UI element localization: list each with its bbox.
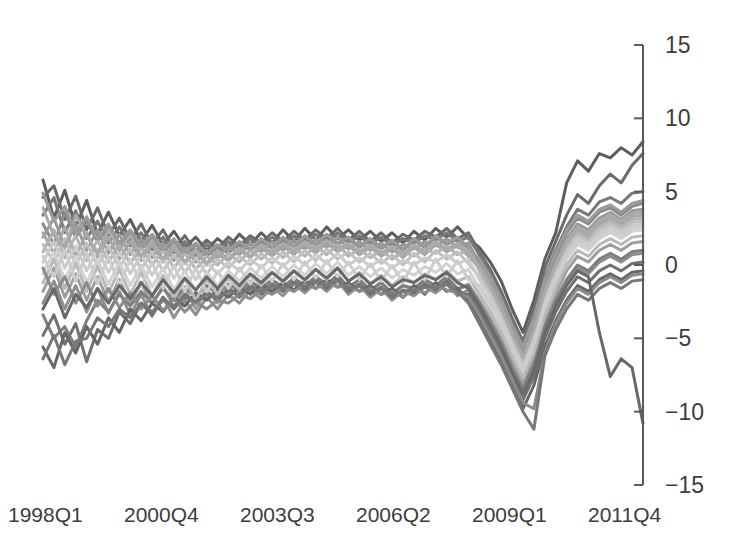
spaghetti-line-chart xyxy=(0,0,745,554)
y-axis-tick-label: −10 xyxy=(665,401,704,424)
y-axis-tick-label: 0 xyxy=(665,254,678,277)
chart-container: 151050−5−10−15 1998Q12000Q42003Q32006Q22… xyxy=(0,0,745,554)
y-axis-tick-label: −5 xyxy=(665,327,691,350)
x-axis-tick-label: 2009Q1 xyxy=(472,504,547,525)
x-axis-tick-label: 2011Q4 xyxy=(588,504,661,525)
y-axis-tick-label: 10 xyxy=(665,107,691,130)
series-group xyxy=(43,142,643,429)
x-axis-tick-label: 1998Q1 xyxy=(8,504,83,525)
y-axis-tick-label: 15 xyxy=(665,34,691,57)
y-axis-tick-label: −15 xyxy=(665,474,704,497)
x-axis-tick-label: 2000Q4 xyxy=(124,504,199,525)
y-axis-tick-label: 5 xyxy=(665,181,678,204)
x-axis-tick-label: 2003Q3 xyxy=(240,504,315,525)
x-axis-tick-label: 2006Q2 xyxy=(356,504,431,525)
